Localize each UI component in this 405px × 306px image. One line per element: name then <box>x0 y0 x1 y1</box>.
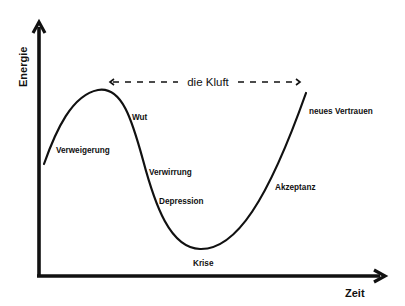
stage-label-depression: Depression <box>159 197 204 206</box>
stage-label-wut: Wut <box>132 113 148 122</box>
gap-label: die Kluft <box>187 76 229 88</box>
gap-arrow: die Kluft <box>110 76 300 88</box>
change-curve-diagram: Energie Zeit die Kluft Verweigerung Wut … <box>0 0 405 306</box>
stage-label-verweigerung: Verweigerung <box>56 146 110 155</box>
x-axis <box>37 270 385 282</box>
gap-arrowhead-right-icon <box>296 79 300 85</box>
y-axis <box>33 22 45 277</box>
stage-label-akzeptanz: Akzeptanz <box>275 183 316 192</box>
stage-label-krise: Krise <box>193 259 214 268</box>
y-axis-label: Energie <box>17 47 29 87</box>
stage-label-neues-vertrauen: neues Vertrauen <box>309 107 373 116</box>
x-axis-label: Zeit <box>345 287 365 299</box>
stage-label-verwirrung: Verwirrung <box>149 168 192 177</box>
